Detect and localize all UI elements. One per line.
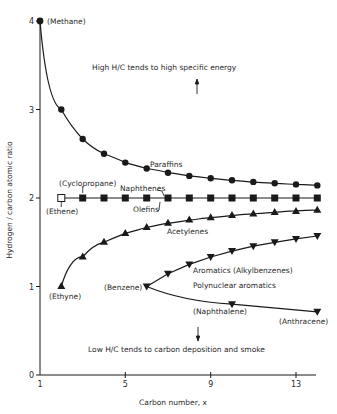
- label-ethyne: (Ethyne): [49, 292, 81, 301]
- label-ethene: (Ethene): [46, 207, 78, 216]
- y-tick-1: 1: [29, 283, 34, 292]
- label-cyclopropane: (Cyclopropane): [59, 179, 116, 188]
- y-axis-title: Hydrogen / carbon atomic ratio: [5, 141, 14, 259]
- label-polynuclear-aromatics: Polynuclear aromatics: [193, 281, 276, 290]
- label-olefins: Olefins: [133, 205, 159, 214]
- label-anthracene: (Anthracene): [279, 317, 328, 326]
- x-tick-1: 1: [37, 380, 42, 389]
- label-acetylenes: Acetylenes: [167, 227, 208, 236]
- x-tick-5: 5: [123, 380, 128, 389]
- series-naphthenes-olefins: [58, 195, 321, 202]
- x-tick-13: 13: [291, 380, 301, 389]
- ethene-open-marker: [58, 195, 65, 202]
- y-tick-2: 2: [29, 194, 34, 203]
- y-tick-4: 4: [29, 17, 34, 26]
- x-axis-title: Carbon number, x: [139, 398, 207, 407]
- y-tick-labels: 0 1 2 3 4: [29, 17, 34, 380]
- label-high-hc: High H/C tends to high specific energy: [92, 63, 237, 72]
- x-tick-labels: 1 5 9 13: [37, 380, 301, 389]
- arrow-up: [195, 79, 198, 94]
- label-naphthalene: (Naphthalene): [193, 307, 247, 316]
- label-methane: (Methane): [47, 17, 86, 26]
- y-tick-0: 0: [29, 371, 34, 380]
- acetylene-markers: [57, 206, 321, 289]
- series-acetylenes: [57, 206, 321, 289]
- y-tick-3: 3: [29, 106, 34, 115]
- hc-ratio-chart: 0 1 2 3 4 1 5 9 13 Carbon number, x Hydr…: [0, 0, 337, 414]
- x-tick-9: 9: [208, 380, 213, 389]
- label-low-hc: Low H/C tends to carbon deposition and s…: [88, 345, 265, 354]
- label-paraffins: Paraffins: [150, 160, 182, 169]
- arrow-down: [196, 327, 199, 341]
- label-benzene: (Benzene): [104, 283, 142, 292]
- label-naphthenes: Naphthenes: [120, 184, 165, 193]
- label-aromatics-alkylbenzenes: Aromatics (Alkylbenzenes): [193, 266, 293, 275]
